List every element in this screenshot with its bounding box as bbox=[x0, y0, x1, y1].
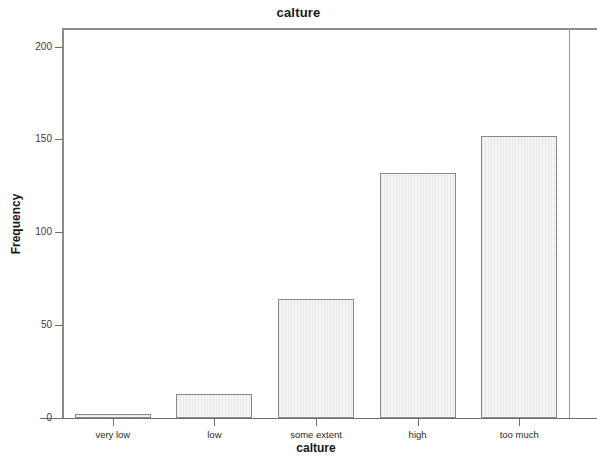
bar bbox=[75, 414, 151, 418]
y-axis-tick-label: 200 bbox=[0, 41, 52, 52]
y-axis-tick-label-wrap: 200 bbox=[0, 47, 52, 48]
chart-title: calture bbox=[0, 5, 597, 20]
y-axis-tick bbox=[55, 139, 63, 140]
x-axis-tick bbox=[316, 419, 317, 426]
y-axis-tick-label: 0 bbox=[0, 412, 52, 423]
plot-frame-right-border bbox=[569, 28, 570, 419]
x-axis-tick-label: very low bbox=[95, 429, 130, 440]
plot-frame-left-border bbox=[62, 28, 64, 418]
y-axis-tick-label: 50 bbox=[0, 319, 52, 330]
bar bbox=[481, 136, 557, 418]
x-axis-tick-label: some extent bbox=[290, 429, 342, 440]
y-axis-tick bbox=[55, 232, 63, 233]
y-axis-tick bbox=[55, 47, 63, 48]
y-axis-tick-label-wrap: 150 bbox=[0, 139, 52, 140]
x-axis-tick bbox=[418, 419, 419, 426]
bar bbox=[380, 173, 456, 418]
plot-frame-top-border bbox=[62, 28, 597, 30]
x-axis-tick-label: too much bbox=[500, 429, 539, 440]
bar bbox=[176, 394, 252, 418]
y-axis-tick-label-wrap: 0 bbox=[0, 418, 52, 419]
y-axis-tick-label: 100 bbox=[0, 226, 52, 237]
bar-chart: calture Frequency calture 050100150200 v… bbox=[0, 0, 597, 462]
x-axis-tick bbox=[214, 419, 215, 426]
x-axis-title: calture bbox=[62, 441, 570, 455]
x-axis-baseline bbox=[40, 418, 597, 419]
x-axis-tick bbox=[519, 419, 520, 426]
y-axis-tick-label-wrap: 100 bbox=[0, 232, 52, 233]
x-axis-tick-label: high bbox=[409, 429, 427, 440]
y-axis-title: Frequency bbox=[9, 184, 23, 264]
y-axis-tick-label: 150 bbox=[0, 133, 52, 144]
x-axis-tick bbox=[113, 419, 114, 426]
y-axis-tick bbox=[55, 325, 63, 326]
x-axis-tick-label: low bbox=[207, 429, 221, 440]
y-axis-tick-label-wrap: 50 bbox=[0, 325, 52, 326]
y-axis-tick bbox=[55, 418, 63, 419]
bar bbox=[278, 299, 354, 418]
